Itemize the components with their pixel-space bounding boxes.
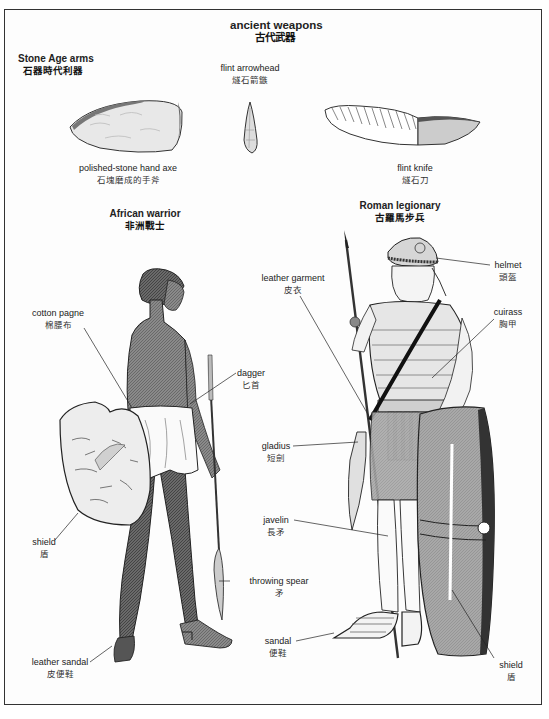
label-javelin: javelin 長矛 (258, 514, 294, 538)
label-shield-roman: shield 盾 (496, 659, 526, 683)
flint-knife-drawing (325, 106, 480, 146)
weapons-illustration (0, 0, 549, 719)
section-heading-stone-age: Stone Age arms 石器時代利器 (18, 53, 94, 77)
page-title: ancient weapons 古代武器 (230, 19, 320, 43)
arrowhead-drawing (244, 102, 257, 153)
label-throwing-spear: throwing spear 矛 (248, 575, 310, 599)
label-shield-african: shield 盾 (30, 536, 58, 560)
label-cuirass: cuirass 胸甲 (490, 306, 526, 330)
label-leather-garment: leather garment 皮衣 (258, 272, 328, 296)
roman-legionary-drawing (334, 230, 494, 658)
label-helmet: helmet 頭盔 (490, 259, 526, 283)
label-hand-axe: polished-stone hand axe 石塊磨成的手斧 (68, 162, 188, 186)
hand-axe-drawing (70, 101, 182, 152)
label-cotton-pagne: cotton pagne 棉腰布 (28, 307, 88, 331)
title-en: ancient weapons (230, 19, 320, 31)
label-leather-sandal: leather sandal 皮便鞋 (30, 656, 90, 680)
label-sandal: sandal 便鞋 (260, 635, 296, 659)
section-heading-african-warrior: African warrior 非洲戰士 (105, 208, 185, 232)
label-arrowhead: flint arrowhead 燧石箭鏃 (220, 62, 280, 86)
label-dagger: dagger 匕首 (234, 367, 268, 391)
label-flint-knife: flint knife 燧石刀 (385, 162, 445, 186)
label-gladius: gladius 短劍 (258, 440, 294, 464)
title-zh: 古代武器 (230, 31, 320, 43)
section-heading-roman-legionary: Roman legionary 古羅馬步兵 (355, 200, 445, 224)
